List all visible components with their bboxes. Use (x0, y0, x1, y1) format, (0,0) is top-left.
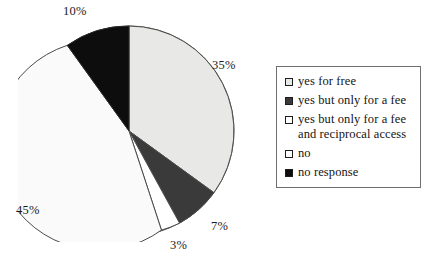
legend-label-line1: yes but only for a fee (298, 112, 406, 126)
legend-item-yes-fee-reciprocal: yes but only for a feeand reciprocal acc… (285, 112, 414, 142)
pie-label-yes-fee-reciprocal-pct: 3% (170, 238, 187, 253)
pie-svg (18, 20, 240, 242)
legend-label-no-response: no response (298, 165, 358, 180)
legend-swatch-yes-fee (285, 97, 293, 105)
legend-label-yes-fee-reciprocal: yes but only for a feeand reciprocal acc… (298, 112, 406, 142)
pie-chart-graphic (18, 20, 240, 242)
chart-legend: yes for free yes but only for a fee yes … (276, 66, 421, 188)
legend-item-yes-for-free: yes for free (285, 74, 414, 89)
legend-item-no: no (285, 146, 414, 161)
legend-item-yes-fee: yes but only for a fee (285, 93, 414, 108)
legend-label-line2: and reciprocal access (298, 127, 406, 142)
pie-label-no-response-pct: 10% (63, 4, 87, 19)
pie-chart-figure: 10% 35% 7% 3% 45% yes for free yes but o… (0, 0, 441, 266)
legend-swatch-no (285, 150, 293, 158)
legend-swatch-yes-for-free (285, 78, 293, 86)
legend-item-no-response: no response (285, 165, 414, 180)
pie-label-no-pct: 45% (16, 203, 40, 218)
pie-label-yes-for-free-pct: 35% (212, 58, 236, 73)
legend-swatch-no-response (285, 169, 293, 177)
legend-label-yes-fee: yes but only for a fee (298, 93, 406, 108)
pie-label-yes-fee-pct: 7% (211, 219, 228, 234)
legend-label-no: no (298, 146, 311, 161)
legend-swatch-yes-fee-reciprocal (285, 116, 293, 124)
legend-label-yes-for-free: yes for free (298, 74, 356, 89)
